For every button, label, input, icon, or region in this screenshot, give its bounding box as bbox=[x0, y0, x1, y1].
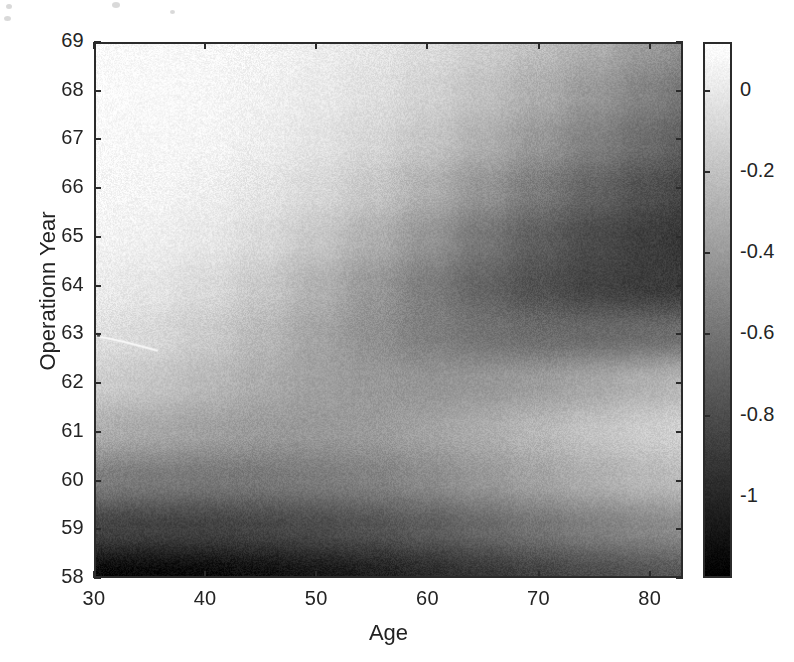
colorbar-tick-mark bbox=[703, 90, 710, 92]
y-tick-mark bbox=[94, 187, 101, 189]
x-tick-label: 70 bbox=[504, 587, 574, 610]
colorbar-tick-label: -0.2 bbox=[740, 159, 774, 182]
x-tick-mark-top bbox=[315, 42, 317, 49]
y-tick-label: 60 bbox=[24, 468, 84, 491]
colorbar-tick-label: -1 bbox=[740, 484, 758, 507]
scan-artifact-speck bbox=[4, 16, 11, 21]
x-tick-mark-top bbox=[204, 42, 206, 49]
y-tick-label: 68 bbox=[24, 78, 84, 101]
colorbar-tick-label: -0.6 bbox=[740, 321, 774, 344]
x-tick-mark-bottom bbox=[649, 571, 651, 578]
colorbar-tick-mark bbox=[703, 415, 710, 417]
y-tick-mark bbox=[94, 528, 101, 530]
x-tick-mark-top bbox=[93, 42, 95, 49]
colorbar-tick-label: -0.8 bbox=[740, 403, 774, 426]
y-tick-mark-right bbox=[676, 382, 683, 384]
x-tick-label: 60 bbox=[392, 587, 462, 610]
y-tick-mark-right bbox=[676, 333, 683, 335]
y-tick-mark bbox=[94, 480, 101, 482]
y-tick-mark-right bbox=[676, 480, 683, 482]
x-tick-label: 30 bbox=[59, 587, 129, 610]
colorbar-tick-mark bbox=[703, 252, 710, 254]
heatmap-surface bbox=[96, 44, 681, 576]
x-tick-mark-bottom bbox=[426, 571, 428, 578]
y-tick-mark bbox=[94, 431, 101, 433]
y-tick-mark-right bbox=[676, 138, 683, 140]
x-tick-mark-bottom bbox=[538, 571, 540, 578]
y-tick-mark bbox=[94, 138, 101, 140]
y-tick-mark-right bbox=[676, 90, 683, 92]
y-tick-mark bbox=[94, 236, 101, 238]
y-tick-label: 67 bbox=[24, 126, 84, 149]
colorbar-tick-label: 0 bbox=[740, 78, 751, 101]
scan-artifact-speck bbox=[6, 4, 12, 9]
x-tick-mark-top bbox=[649, 42, 651, 49]
scan-artifact-speck bbox=[112, 2, 120, 8]
y-tick-mark bbox=[94, 382, 101, 384]
x-tick-label: 50 bbox=[281, 587, 351, 610]
scan-artifact-speck bbox=[170, 10, 175, 14]
y-tick-label: 61 bbox=[24, 419, 84, 442]
x-tick-label: 80 bbox=[615, 587, 685, 610]
y-tick-mark bbox=[94, 41, 101, 43]
colorbar-tick-mark bbox=[703, 496, 710, 498]
y-tick-label: 59 bbox=[24, 516, 84, 539]
figure-canvas: 696867666564636261605958 Operationn Year… bbox=[0, 0, 794, 662]
x-tick-mark-bottom bbox=[315, 571, 317, 578]
y-tick-mark bbox=[94, 90, 101, 92]
x-tick-mark-bottom bbox=[93, 571, 95, 578]
y-tick-mark-right bbox=[676, 431, 683, 433]
x-tick-mark-top bbox=[538, 42, 540, 49]
x-axis-title: Age bbox=[94, 620, 683, 646]
x-tick-mark-bottom bbox=[204, 571, 206, 578]
y-tick-mark bbox=[94, 333, 101, 335]
y-axis-title: Operationn Year bbox=[35, 171, 61, 411]
y-tick-label: 69 bbox=[24, 29, 84, 52]
colorbar-tick-mark bbox=[703, 171, 710, 173]
y-tick-mark-right bbox=[676, 41, 683, 43]
y-tick-mark-right bbox=[676, 528, 683, 530]
y-tick-label: 58 bbox=[24, 565, 84, 588]
y-tick-mark-right bbox=[676, 285, 683, 287]
colorbar-tick-mark bbox=[703, 333, 710, 335]
x-tick-label: 40 bbox=[170, 587, 240, 610]
y-tick-mark-right bbox=[676, 577, 683, 579]
y-tick-mark-right bbox=[676, 187, 683, 189]
x-tick-mark-top bbox=[426, 42, 428, 49]
colorbar-tick-label: -0.4 bbox=[740, 240, 774, 263]
y-tick-mark bbox=[94, 577, 101, 579]
y-tick-mark bbox=[94, 285, 101, 287]
y-tick-mark-right bbox=[676, 236, 683, 238]
heatmap-plot-area bbox=[94, 42, 683, 578]
